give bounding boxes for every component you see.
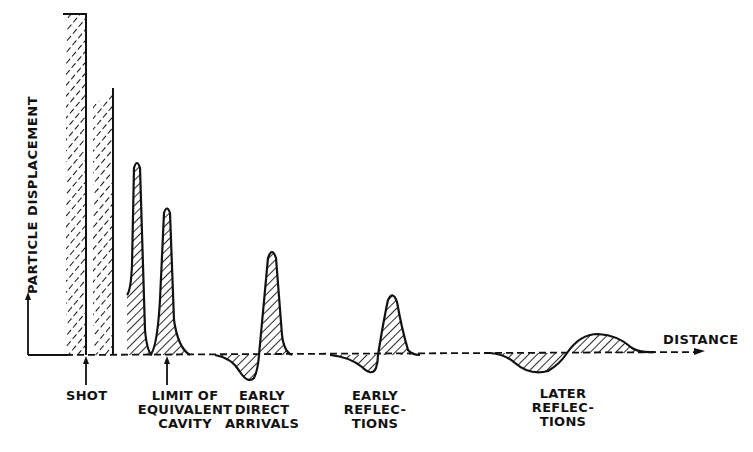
- pulse-3: [127, 163, 152, 355]
- label-later-reflections: LATER REFLEC- TIONS: [528, 387, 598, 429]
- pulse-early-reflections: [330, 295, 420, 372]
- label-early-reflections: EARLY REFLEC- TIONS: [340, 389, 410, 431]
- label-early-direct: EARLY DIRECT ARRIVALS: [222, 389, 302, 431]
- pulse-early-direct: [215, 252, 292, 380]
- cavity-marker-arrow: [164, 356, 170, 385]
- shot-marker-arrow: [83, 356, 89, 385]
- pulse-shot-2: [93, 88, 113, 355]
- y-axis: [25, 292, 31, 355]
- pulse-cavity: [150, 209, 190, 356]
- diagram-canvas: [0, 0, 753, 452]
- pulse-shot-1: [63, 14, 86, 355]
- x-axis-label: DISTANCE: [663, 332, 738, 347]
- label-shot: SHOT: [66, 389, 106, 403]
- y-axis-label: PARTICLE DISPLACEMENT: [25, 96, 40, 294]
